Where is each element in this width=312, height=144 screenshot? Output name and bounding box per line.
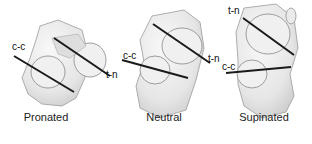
supinated-tn-label: t-n [228, 6, 240, 16]
pronated-caption: Pronated [1, 111, 91, 123]
pronated-tn-label: t-n [106, 70, 118, 80]
neutral-bones [122, 10, 210, 118]
pronated-bones [14, 20, 110, 106]
neutral-cc-label: c-c [123, 51, 136, 61]
foot-joint-axes-figure: c-c t-n Pronated c-c t-n Neutral t-n c-c… [0, 0, 312, 144]
supinated-cc-label: c-c [222, 62, 235, 72]
supinated-bones [226, 4, 298, 118]
supinated-caption: Supinated [219, 111, 309, 123]
neutral-caption: Neutral [119, 111, 209, 123]
pronated-cc-label: c-c [12, 42, 25, 52]
neutral-tn-label: t-n [208, 54, 220, 64]
